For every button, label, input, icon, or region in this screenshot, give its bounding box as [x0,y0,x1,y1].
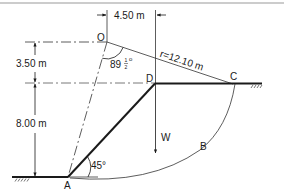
slope-diagram: 4.50 m 3.50 m 8.00 m r=12.10 m 89 1 2 o … [0,0,284,196]
point-label-a: A [64,180,71,191]
point-label-c: C [230,71,237,82]
point-label-d: D [146,73,153,84]
point-label-b: B [200,141,207,152]
radius-label: r=12.10 m [159,48,205,73]
crest-hatch [251,85,262,88]
dim-label-4-50: 4.50 m [114,10,145,21]
weight-label: W [161,132,171,143]
dim-label-8-00: 8.00 m [16,118,47,129]
toe-hatch [15,179,29,182]
point-label-o: O [97,32,105,43]
center-angle-arc [102,47,123,59]
center-angle-deg: o [129,56,133,62]
dim-label-3-50: 3.50 m [16,58,47,69]
center-angle-frac-num: 1 [125,57,128,63]
slope-angle-label: 45° [91,160,106,171]
center-angle-label: 89 [110,59,122,70]
slope-face-ad [68,84,155,178]
center-angle-frac-den: 2 [125,64,128,70]
